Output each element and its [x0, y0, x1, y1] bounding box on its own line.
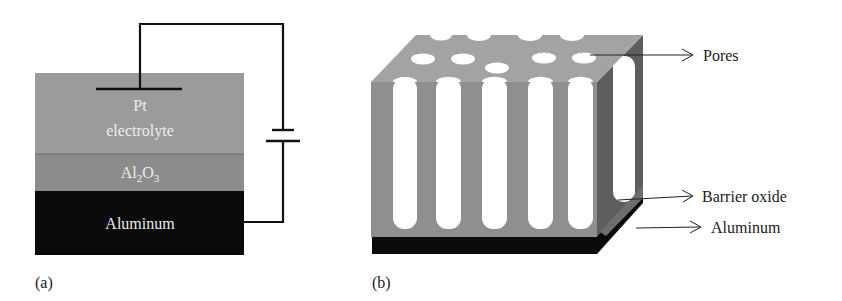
panel-b-caption: (b): [372, 274, 391, 292]
alumina-label-al: Al: [121, 164, 138, 181]
aluminum-arrow-line: [636, 227, 700, 228]
pore-column: [436, 78, 461, 229]
anodization-diagram: Pt electrolyte Al2O3 Aluminum (a): [0, 0, 842, 301]
pore-column: [568, 78, 593, 229]
aluminum-base-front: [372, 236, 597, 254]
aluminum-label-a: Aluminum: [105, 215, 175, 232]
pore-column: [482, 78, 507, 229]
barrier-oxide-label: Barrier oxide: [702, 188, 787, 205]
panel-b-porous-alumina: Pores Barrier oxide Aluminum (b): [371, 35, 787, 292]
circuit-wire-return: [244, 141, 283, 222]
panel-a-caption: (a): [35, 274, 53, 292]
pore-opening: [572, 53, 596, 64]
panel-a-electrochemical-cell: Pt electrolyte Al2O3 Aluminum (a): [35, 24, 300, 292]
electrolyte-label: electrolyte: [106, 122, 174, 140]
pore-column: [393, 78, 417, 229]
pore-opening: [485, 63, 509, 74]
pore-column: [528, 78, 553, 229]
pores-label: Pores: [703, 47, 739, 64]
alumina-label-sub3: 3: [154, 172, 160, 184]
pore-opening: [451, 54, 475, 65]
side-pore: [613, 56, 635, 202]
pore-opening: [411, 54, 435, 65]
pt-label: Pt: [133, 97, 147, 114]
barrier-oxide-callout: Barrier oxide: [618, 188, 787, 205]
aluminum-callout: Aluminum: [636, 219, 781, 236]
aluminum-label-b: Aluminum: [711, 219, 781, 236]
pore-opening: [532, 53, 556, 64]
alumina-label-o: O: [142, 164, 154, 181]
